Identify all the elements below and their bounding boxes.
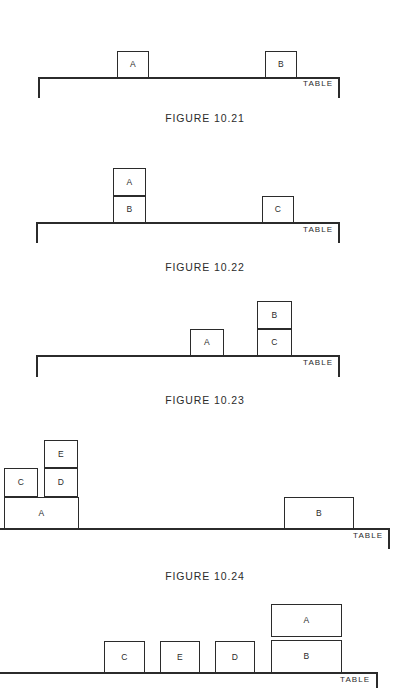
block-d: D bbox=[215, 641, 255, 673]
block-c: C bbox=[104, 641, 145, 673]
block-label: B bbox=[303, 652, 309, 661]
table-leg-right bbox=[376, 672, 378, 688]
block-label: E bbox=[177, 653, 183, 662]
figure-sheet: TABLEABFIGURE 10.21TABLEABCFIGURE 10.22T… bbox=[0, 0, 410, 688]
block-label: C bbox=[121, 653, 128, 662]
block-b: B bbox=[271, 640, 342, 673]
block-label: A bbox=[303, 616, 309, 625]
block-e: E bbox=[160, 641, 200, 673]
block-label: D bbox=[232, 653, 239, 662]
block-a: A bbox=[271, 604, 342, 637]
figure-group: TABLECEDAB bbox=[0, 0, 410, 688]
table-label: TABLE bbox=[340, 676, 370, 684]
